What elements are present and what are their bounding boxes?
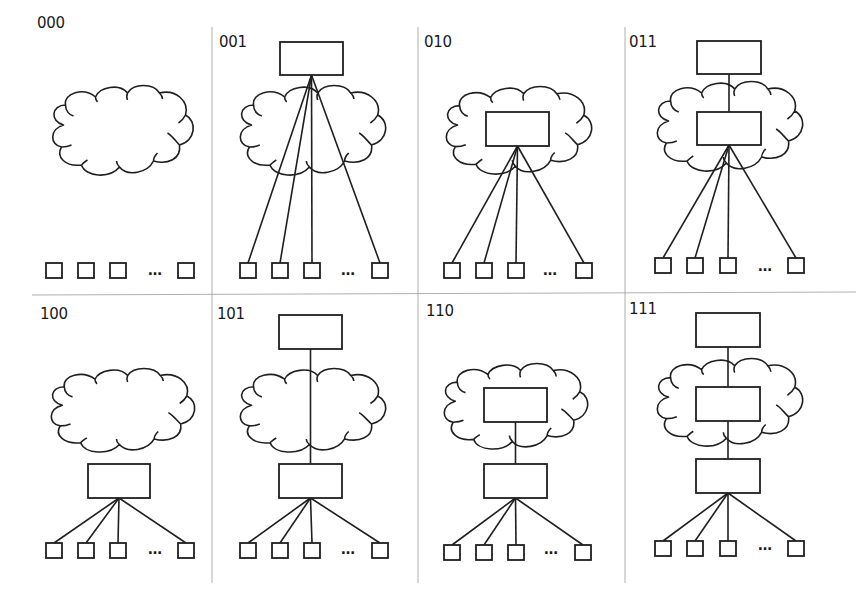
leaf-node-square-101-0: [240, 543, 256, 558]
fan-line-011-0: [663, 145, 729, 258]
fan-line-001-0: [248, 75, 312, 263]
ellipsis-100: …: [148, 541, 162, 557]
fan-line-110-2: [516, 498, 517, 545]
cloud-node-box-111: [696, 387, 760, 421]
leaf-node-square-110-3: [575, 545, 591, 560]
cloud-icon-001: [240, 86, 385, 176]
fan-line-001-2: [312, 75, 313, 263]
fan-line-101-2: [311, 498, 313, 543]
leaf-node-square-101-2: [304, 543, 320, 558]
bottom-node-box-101: [279, 464, 342, 498]
fan-line-111-0: [663, 493, 728, 541]
fan-line-101-0: [248, 498, 311, 543]
leaf-node-square-010-2: [508, 263, 524, 278]
leaf-node-square-011-3: [788, 258, 804, 273]
ellipsis-101: …: [341, 541, 355, 557]
leaf-node-square-000-1: [78, 263, 94, 278]
fan-line-100-2: [118, 498, 119, 543]
cloud-icon-101: [240, 368, 385, 452]
fan-line-010-2: [516, 146, 518, 263]
leaf-node-square-010-1: [476, 263, 492, 278]
fan-line-110-1: [484, 498, 516, 545]
leaf-node-square-001-1: [272, 263, 288, 278]
ellipsis-110: …: [544, 541, 558, 557]
panel-label-100: 100: [40, 305, 68, 323]
diagram-grid: 000 001 010 011 100 101 110 111 … … … … …: [0, 0, 856, 609]
fan-line-101-3: [311, 498, 381, 543]
ellipsis-011: …: [758, 258, 772, 274]
leaf-node-square-111-2: [720, 541, 736, 556]
leaf-node-square-100-1: [78, 543, 94, 558]
cloud-icon-100: [51, 368, 194, 452]
leaf-node-square-101-3: [372, 543, 388, 558]
fan-line-011-1: [695, 145, 729, 258]
fan-line-010-3: [518, 146, 585, 263]
fan-line-110-3: [516, 498, 584, 545]
leaf-node-square-111-3: [788, 541, 804, 556]
leaf-node-square-000-0: [46, 263, 62, 278]
panel-label-011: 011: [629, 33, 657, 51]
leaf-node-square-101-1: [272, 543, 288, 558]
leaf-node-square-110-1: [476, 545, 492, 560]
cloud-node-box-010: [486, 112, 549, 146]
leaf-node-square-110-2: [508, 545, 524, 560]
fan-line-111-3: [728, 493, 796, 541]
ellipsis-000: …: [148, 262, 162, 278]
fan-line-001-3: [312, 75, 381, 263]
bottom-node-box-111: [696, 459, 760, 493]
top-node-box-101: [279, 315, 342, 349]
leaf-node-square-000-3: [178, 263, 194, 278]
leaf-node-square-100-0: [46, 543, 62, 558]
leaf-node-square-111-0: [655, 541, 671, 556]
cloud-node-box-011: [697, 112, 761, 145]
fan-line-011-2: [728, 145, 729, 258]
top-node-box-111: [696, 313, 760, 347]
panel-label-000: 000: [37, 14, 65, 32]
fan-line-101-1: [280, 498, 311, 543]
top-node-box-001: [280, 42, 343, 75]
leaf-node-square-011-0: [655, 258, 671, 273]
leaf-node-square-011-1: [687, 258, 703, 273]
leaf-node-square-110-0: [444, 545, 460, 560]
fan-line-111-1: [695, 493, 728, 541]
top-node-box-011: [697, 41, 761, 74]
fan-line-110-0: [452, 498, 516, 545]
leaf-node-square-100-2: [110, 543, 126, 558]
leaf-node-square-001-2: [304, 263, 320, 278]
panel-label-010: 010: [424, 33, 452, 51]
ellipsis-111: …: [758, 537, 772, 553]
fan-line-100-0: [54, 498, 119, 543]
bottom-node-box-110: [484, 464, 547, 498]
leaf-node-square-010-0: [444, 263, 460, 278]
horizontal-divider: [32, 292, 856, 295]
panel-label-110: 110: [426, 302, 454, 320]
ellipsis-010: …: [543, 262, 557, 278]
fan-line-011-3: [729, 145, 796, 258]
cloud-icon-000: [53, 86, 193, 176]
panel-label-101: 101: [217, 305, 245, 323]
leaf-node-square-111-1: [687, 541, 703, 556]
leaf-node-square-001-0: [240, 263, 256, 278]
leaf-node-square-010-3: [576, 263, 592, 278]
leaf-node-square-000-2: [110, 263, 126, 278]
leaf-node-square-011-2: [720, 258, 736, 273]
ellipsis-001: …: [341, 262, 355, 278]
panel-label-001: 001: [219, 33, 247, 51]
fan-line-010-1: [484, 146, 518, 263]
fan-line-100-3: [119, 498, 186, 543]
cloud-node-box-110: [484, 388, 547, 422]
fan-line-100-1: [86, 498, 119, 543]
leaf-node-square-001-3: [372, 263, 388, 278]
bottom-node-box-100: [88, 464, 150, 498]
leaf-node-square-100-3: [178, 543, 194, 558]
panel-label-111: 111: [629, 300, 657, 318]
